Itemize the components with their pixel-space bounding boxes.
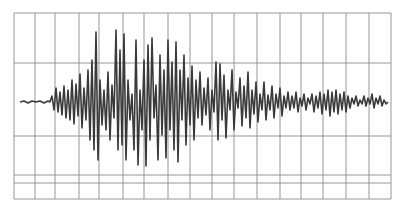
seismogram-svg (0, 0, 401, 208)
seismogram-chart (0, 0, 401, 208)
